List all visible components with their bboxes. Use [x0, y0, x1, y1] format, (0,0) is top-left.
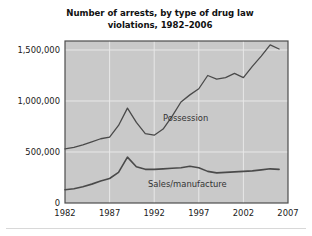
y-tick-label-2: 1,000,000	[17, 96, 60, 106]
page-divider	[6, 228, 306, 229]
x-tick-label-5: 2007	[277, 208, 298, 218]
x-tick-label-0: 1982	[54, 208, 75, 218]
chart-title: Number of arrests, by type of drug law v…	[36, 8, 284, 31]
line-chart-plot: 0500,0001,000,0001,500,000 1982198719921…	[0, 0, 312, 236]
chart-title-line-2: violations, 1982–2006	[36, 20, 284, 32]
x-axis-tick-labels: 198219871992199720022007	[54, 208, 298, 218]
x-tick-label-3: 1997	[188, 208, 209, 218]
y-axis-tick-labels: 0500,0001,000,0001,500,000	[17, 45, 60, 208]
x-tick-label-4: 2002	[233, 208, 254, 218]
y-tick-label-0: 0	[55, 198, 60, 208]
y-tick-label-3: 1,500,000	[17, 45, 60, 55]
chart-figure: Number of arrests, by type of drug law v…	[0, 0, 312, 236]
chart-title-line-1: Number of arrests, by type of drug law	[66, 8, 253, 18]
x-tick-label-1: 1987	[99, 208, 120, 218]
x-tick-label-2: 1992	[144, 208, 165, 218]
y-tick-label-1: 500,000	[25, 147, 60, 157]
series-label-possession: Possession	[163, 113, 208, 123]
series-label-sales: Sales/manufacture	[148, 179, 227, 189]
